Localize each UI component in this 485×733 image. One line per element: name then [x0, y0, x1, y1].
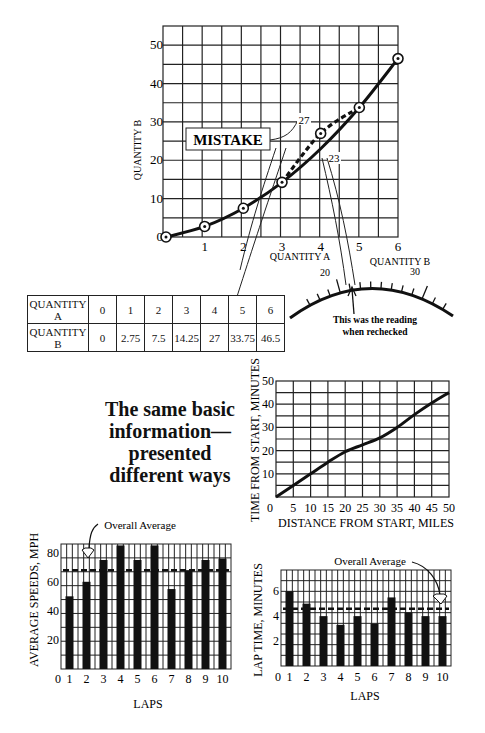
x-tick-label: 50	[443, 501, 455, 515]
y-tick-label: 4	[273, 609, 279, 623]
bar	[354, 616, 362, 666]
bar	[439, 616, 447, 666]
gauge-tick	[422, 286, 427, 299]
headline-line: information—	[95, 420, 245, 442]
bar	[337, 625, 345, 666]
chart-quantity-y-ticks: 01020304050	[150, 37, 163, 244]
x-tick-label: 7	[169, 672, 175, 686]
y-tick-label: 80	[47, 546, 59, 560]
bar	[320, 616, 328, 666]
chart-speeds: 20406080 012345678910 AVERAGE SPEEDS, MP…	[27, 519, 231, 711]
table-cell: 0	[89, 324, 117, 352]
table-cell: 2	[145, 296, 173, 324]
table-cell: 0	[89, 296, 117, 324]
gauge-title: QUANTITY B	[370, 256, 431, 267]
y-tick-label: 40	[150, 76, 163, 91]
x-tick-label: 8	[406, 670, 412, 684]
gauge-tick	[443, 303, 447, 309]
table-cell: 46.5	[257, 324, 285, 352]
y-tick-label: 20	[47, 633, 59, 647]
x-tick-label: 5	[356, 239, 363, 254]
bar	[134, 560, 142, 669]
lap-times-average-label: Overall Average	[334, 555, 406, 567]
data-point-dot	[203, 225, 206, 228]
chart-lap-times-x-ticks: 012345678910	[275, 670, 449, 684]
table-cell: 33.75	[229, 324, 257, 352]
annotation-27: 27	[299, 114, 311, 126]
gauge-ticks	[307, 279, 446, 309]
y-tick-label: 40	[262, 397, 274, 411]
bar	[422, 616, 430, 666]
bar	[100, 560, 108, 669]
x-tick-label: 1	[67, 672, 73, 686]
y-tick-label: 20	[262, 444, 274, 458]
chart-speeds-x-label: LAPS	[133, 697, 162, 711]
quantity-table: QUANTITY A 0 1 2 3 4 5 6 QUANTITY B 0 2.…	[27, 295, 285, 352]
y-tick-label: 6	[273, 584, 279, 598]
x-tick-label: 1	[287, 670, 293, 684]
chart-speeds-x-ticks: 012345678910	[55, 672, 229, 686]
gauge-tick	[432, 298, 435, 304]
recheck-pointer-left-edge	[322, 158, 346, 285]
table-cell: 2.75	[117, 324, 145, 352]
gauge-tick-label-30: 30	[410, 266, 420, 277]
data-point-dot	[281, 181, 284, 184]
gauge-arc	[290, 288, 453, 318]
x-tick-label: 15	[322, 501, 334, 515]
y-tick-label: 40	[47, 604, 59, 618]
y-tick-label: 50	[262, 374, 274, 388]
table-cell: 14.25	[173, 324, 201, 352]
bar	[185, 570, 193, 669]
table-cell: 7.5	[145, 324, 173, 352]
speeds-average-label: Overall Average	[104, 519, 176, 531]
chart-time-distance-y-label: TIME FROM START, MINUTES	[248, 358, 262, 522]
chart-lap-times-y-ticks: 246	[273, 584, 279, 648]
x-tick-label: 6	[152, 672, 158, 686]
x-tick-label: 5	[290, 501, 296, 515]
gauge-tick	[337, 279, 341, 292]
chart-quantity-x-label: QUANTITY A	[270, 251, 331, 262]
x-tick-label: 6	[395, 239, 402, 254]
y-tick-label: 30	[150, 114, 163, 129]
lap-times-average-pointer	[412, 562, 440, 595]
data-point-dot	[397, 57, 400, 60]
chart-speeds-y-label: AVERAGE SPEEDS, MPH	[27, 533, 41, 667]
gauge-tick	[381, 282, 382, 289]
chart-lap-times-y-label: LAP TIME, MINUTES	[251, 563, 265, 677]
y-tick-label: 30	[262, 420, 274, 434]
annotation-23: 23	[329, 152, 341, 164]
x-tick-label: 3	[321, 670, 327, 684]
figure-canvas: 01020304050 123456 QUANTITY B QUANTITY A…	[0, 0, 485, 733]
table-cell: 5	[229, 296, 257, 324]
y-tick-label: 20	[150, 152, 163, 167]
x-tick-label: 0	[55, 672, 61, 686]
x-tick-label: 1	[201, 239, 208, 254]
table-cell: 6	[257, 296, 285, 324]
y-tick-label: 50	[150, 37, 163, 52]
data-point-dot	[358, 106, 361, 109]
bar	[151, 545, 159, 669]
bar	[286, 591, 294, 666]
table-cell: 3	[173, 296, 201, 324]
table-row-label: QUANTITY A	[28, 296, 89, 324]
y-tick-label: 10	[150, 191, 163, 206]
headline: The same basic information— presented di…	[95, 398, 245, 486]
gauge-reading-arrow	[352, 289, 354, 314]
x-tick-label: 6	[372, 670, 378, 684]
x-tick-label: 5	[355, 670, 361, 684]
bar	[219, 559, 227, 669]
headline-line: The same basic	[95, 398, 245, 420]
x-tick-label: 9	[203, 672, 209, 686]
chart-time-distance-y-ticks: 1020304050	[262, 374, 274, 481]
y-tick-label: 60	[47, 575, 59, 589]
bar	[66, 596, 74, 669]
x-tick-label: 30	[374, 501, 386, 515]
gauge-tick-label-20: 20	[320, 267, 330, 278]
table-cell: 27	[201, 324, 229, 352]
bar	[168, 589, 176, 669]
x-tick-label: 3	[101, 672, 107, 686]
gauge-tick	[360, 282, 361, 289]
x-tick-label: 40	[408, 501, 420, 515]
x-tick-label: 4	[338, 670, 344, 684]
chart-quantity: 01020304050 123456 QUANTITY B QUANTITY A…	[132, 26, 403, 328]
